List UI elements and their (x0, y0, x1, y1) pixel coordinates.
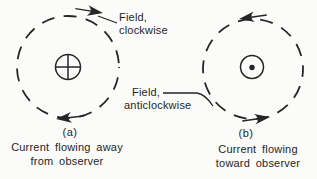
caption-left-line2: from observer (6, 154, 128, 168)
field-anticlockwise-label-line1: Field, (132, 86, 160, 99)
caption-right-line1: Current flowing (198, 142, 317, 156)
caption-left-line1: Current flowing away (6, 140, 128, 154)
field-clockwise-label: Field, clockwise (119, 11, 168, 36)
textbook-figure-magnetic-field: Field, clockwise Field, anticlockwise (a… (0, 0, 317, 179)
leader-line-clockwise (98, 16, 117, 23)
field-clockwise-label-line2: clockwise (119, 24, 168, 37)
caption-left: Current flowing away from observer (6, 140, 128, 168)
field-anticlockwise-label-line2: anticlockwise (124, 99, 191, 112)
caption-right: Current flowing toward observer (198, 142, 317, 170)
caption-right-line2: toward observer (198, 156, 317, 170)
arrow-anticlockwise-top-icon (238, 10, 267, 24)
current-away-cross-icon (56, 55, 81, 80)
field-clockwise-label-line1: Field, (119, 11, 168, 24)
sublabel-b: (b) (233, 127, 259, 139)
current-toward-dot-icon (241, 56, 264, 79)
arrow-clockwise-bottom-icon (55, 111, 84, 124)
sublabel-a: (a) (57, 126, 83, 138)
